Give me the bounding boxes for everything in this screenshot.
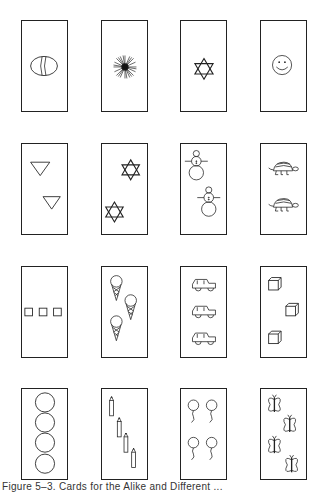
card-butterflies	[260, 388, 307, 480]
card-ball	[21, 20, 68, 112]
ball-icon	[22, 21, 67, 111]
card-cubes	[260, 266, 307, 358]
card-balloons	[180, 388, 227, 480]
card-squares	[21, 266, 68, 358]
butterfly-icons	[261, 389, 306, 479]
card-cars	[180, 266, 227, 358]
car-icons	[181, 267, 226, 357]
card-circles	[21, 388, 68, 480]
ice-cream-cone-icons	[102, 267, 147, 357]
snowman-icons	[181, 144, 226, 234]
turtle-icons	[261, 144, 306, 234]
card-ice-cream-cones	[101, 266, 148, 358]
card-snowmen	[180, 143, 227, 235]
card-turtles	[260, 143, 307, 235]
square-icons	[22, 267, 67, 357]
card-triangles	[21, 143, 68, 235]
triangle-icons	[22, 144, 67, 234]
pencil-icons	[102, 389, 147, 479]
circle-icons	[22, 389, 67, 479]
card-smiley-face	[260, 20, 307, 112]
card-starburst	[101, 20, 148, 112]
card-stars-of-david	[101, 143, 148, 235]
star-of-david-icons	[102, 144, 147, 234]
card-star-of-david	[180, 20, 227, 112]
figure-caption: Figure 5–3. Cards for the Alike and Diff…	[2, 481, 223, 492]
balloon-icons	[181, 389, 226, 479]
smiley-face-icon	[261, 21, 306, 111]
star-of-david-icon	[181, 21, 226, 111]
card-pencils	[101, 388, 148, 480]
cube-icons	[261, 267, 306, 357]
starburst-icon	[102, 21, 147, 111]
